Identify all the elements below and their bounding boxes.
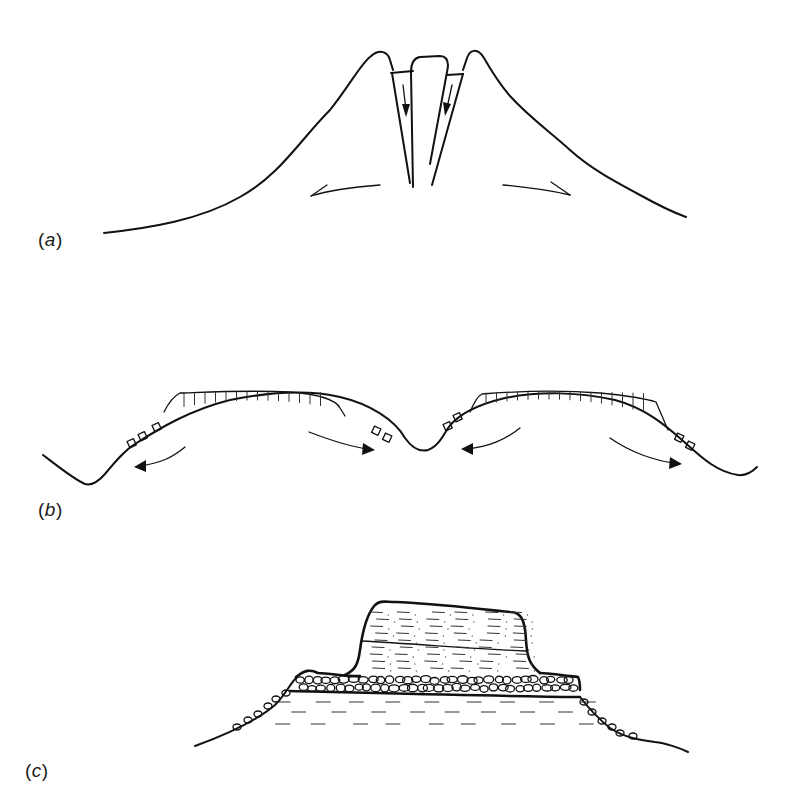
panel-c-drawing [0,0,788,812]
label-paren-close: ) [42,760,49,781]
label-paren-close: ) [56,229,63,250]
label-letter: c [32,760,42,781]
label-paren-open: ( [38,229,45,250]
panel-c-ground-profile [195,678,688,752]
panel-c-lower-bed-pattern [276,702,596,724]
panel-label-c: (c) [25,760,49,782]
figure: (a) (b) (c) [0,0,788,812]
label-letter: a [45,229,56,250]
panel-c-boulders [296,675,578,692]
panel-label-b: (b) [38,499,63,521]
label-paren-open: ( [38,499,45,520]
label-paren-open: ( [25,760,32,781]
label-paren-close: ) [56,499,63,520]
panel-c-upper-bed-pattern [370,612,535,672]
label-letter: b [45,499,56,520]
panel-label-a: (a) [38,229,63,251]
